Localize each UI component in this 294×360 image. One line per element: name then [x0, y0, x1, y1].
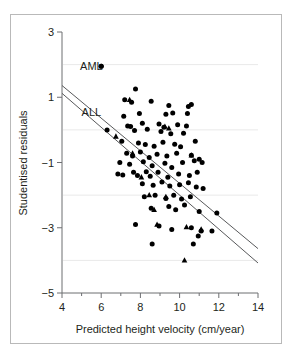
data-point-circle — [158, 129, 163, 134]
data-point-circle — [156, 170, 161, 175]
fit-line-all — [62, 93, 258, 263]
data-point-circle — [145, 127, 150, 132]
data-point-circle — [149, 99, 154, 104]
data-point-circle — [191, 242, 196, 247]
data-point-circle — [169, 165, 174, 170]
data-point-circle — [188, 194, 193, 199]
data-point-circle — [137, 111, 142, 116]
figure-container: 468101214 31−1−3−5 AMLALL Predicted heig… — [0, 0, 294, 360]
data-point-circle — [144, 169, 149, 174]
data-point-circle — [189, 225, 194, 230]
data-point-circle — [128, 124, 133, 129]
data-point-triangle — [127, 97, 133, 102]
data-point-circle — [176, 171, 181, 176]
data-point-circle — [200, 160, 205, 165]
y-tick-label: 1 — [48, 91, 54, 103]
data-point-circle — [121, 114, 126, 119]
data-point-circle — [177, 182, 182, 187]
data-point-circle — [166, 103, 171, 108]
x-tick-label: 8 — [137, 301, 143, 313]
series-label-all: ALL — [82, 106, 102, 118]
data-point-circle — [138, 150, 143, 155]
legend-marker-circle — [99, 64, 104, 69]
scatter-plot: 468101214 31−1−3−5 AMLALL Predicted heig… — [0, 0, 294, 360]
y-axis-title: Studentised residuals — [17, 110, 29, 216]
data-point-circle — [164, 153, 169, 158]
data-point-circle — [166, 204, 171, 209]
data-point-triangle — [113, 133, 119, 138]
data-point-circle — [184, 123, 189, 128]
data-point-circle — [169, 227, 174, 232]
data-point-circle — [124, 151, 129, 156]
data-point-circle — [195, 170, 200, 175]
data-point-circle — [187, 173, 192, 178]
data-point-circle — [174, 151, 179, 156]
x-axis-title: Predicted height velocity (cm/year) — [76, 323, 245, 335]
data-point-circle — [186, 180, 191, 185]
y-tick-label: 3 — [48, 26, 54, 38]
data-point-circle — [197, 209, 202, 214]
x-tick-label: 6 — [98, 301, 104, 313]
data-point-circle — [178, 144, 183, 149]
data-point-circle — [119, 139, 124, 144]
data-point-circle — [133, 222, 138, 227]
data-point-circle — [209, 229, 214, 234]
data-point-circle — [140, 181, 145, 186]
x-tick-label: 4 — [59, 301, 65, 313]
data-point-circle — [171, 193, 176, 198]
data-point-circle — [182, 202, 187, 207]
gridlines — [63, 65, 258, 261]
data-point-circle — [155, 152, 160, 157]
x-tick-label: 14 — [252, 301, 264, 313]
data-point-triangle — [184, 224, 190, 229]
data-point-circle — [122, 97, 127, 102]
data-point-circle — [153, 193, 158, 198]
data-point-circle — [172, 142, 177, 147]
data-point-circle — [150, 242, 155, 247]
data-point-circle — [115, 171, 120, 176]
data-point-circle — [165, 175, 170, 180]
data-point-circle — [152, 144, 157, 149]
data-point-circle — [168, 131, 173, 136]
data-point-circle — [127, 162, 132, 167]
data-point-circle — [194, 184, 199, 189]
data-point-triangle — [163, 194, 169, 199]
data-point-circle — [141, 159, 146, 164]
data-point-circle — [179, 197, 184, 202]
data-point-circle — [196, 233, 201, 238]
y-tick-label: −5 — [41, 287, 54, 299]
data-point-circle — [117, 160, 122, 165]
data-point-circle — [105, 127, 110, 132]
data-point-circle — [136, 140, 141, 145]
y-axis-ticks: 31−1−3−5 — [41, 26, 62, 299]
data-point-circle — [159, 180, 164, 185]
data-point-circle — [160, 140, 165, 145]
data-point-circle — [175, 122, 180, 127]
data-point-circle — [150, 163, 155, 168]
x-tick-label: 10 — [173, 301, 185, 313]
x-axis-ticks: 468101214 — [59, 293, 264, 313]
data-point-circle — [120, 172, 125, 177]
data-point-circle — [167, 183, 172, 188]
y-tick-label: −1 — [41, 157, 54, 169]
x-tick-label: 12 — [213, 301, 225, 313]
data-point-circle — [181, 131, 186, 136]
series-annotations: AMLALL — [80, 60, 104, 118]
data-points — [99, 64, 220, 263]
data-point-circle — [185, 111, 190, 116]
data-point-circle — [214, 211, 219, 216]
data-point-circle — [192, 158, 197, 163]
data-point-circle — [173, 207, 178, 212]
data-point-circle — [143, 142, 148, 147]
data-point-circle — [132, 128, 137, 133]
data-point-circle — [162, 161, 167, 166]
y-tick-label: −3 — [41, 222, 54, 234]
data-point-circle — [163, 112, 168, 117]
data-point-circle — [131, 170, 136, 175]
data-point-triangle — [198, 226, 204, 231]
data-point-circle — [201, 186, 206, 191]
data-point-circle — [157, 122, 162, 127]
data-point-circle — [193, 139, 198, 144]
data-point-circle — [147, 155, 152, 160]
data-point-circle — [135, 173, 140, 178]
